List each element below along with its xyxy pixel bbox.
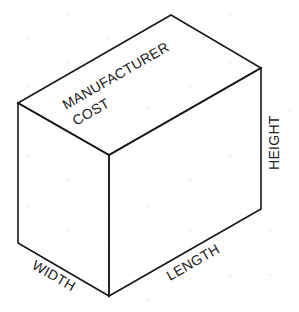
length-label: LENGTH	[164, 240, 223, 283]
top-face-label-line1: MANUFACTURER	[60, 39, 172, 113]
isometric-box-diagram: MANUFACTURER COST HEIGHT WIDTH LENGTH	[0, 0, 299, 312]
width-label: WIDTH	[30, 257, 79, 295]
height-label: HEIGHT	[266, 115, 282, 170]
box-top-face	[18, 15, 261, 155]
